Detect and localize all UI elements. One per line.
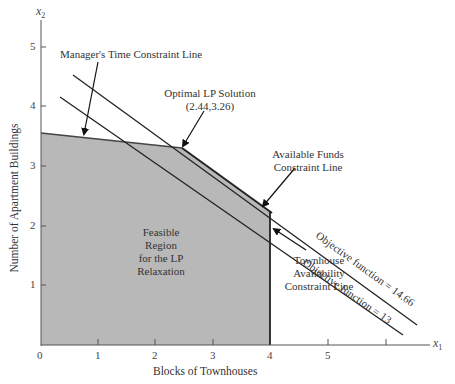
managers-time-arrow [84,62,98,134]
managers-time-label: Manager's Time Constraint Line [60,48,202,61]
x-tick-1: 1 [95,349,101,361]
feasible-region-label: Feasible Region for the LP Relaxation [126,226,196,278]
optimal-solution-label: Optimal LP Solution (2.44,3.26) [160,87,260,113]
x-axis-var-label: x1 [433,336,442,352]
x-tick-3: 3 [210,349,216,361]
y-axis-title: Number of Apartment Buildings [8,108,20,288]
x-axis-title: Blocks of Townhouses [153,365,257,378]
funds-constraint-label: Available Funds Constraint Line [258,148,358,174]
x-tick-4: 4 [267,349,273,361]
y-tick-1: 1 [30,278,36,290]
x-tick-2: 2 [152,349,158,361]
optimal-solution-arrow [183,111,204,146]
x-tick-0: 0 [37,349,43,361]
y-tick-5: 5 [30,40,36,52]
y-tick-4: 4 [30,99,36,111]
y-axis-var-label: x2 [36,4,45,20]
x-tick-5: 5 [325,349,331,361]
y-tick-2: 2 [30,219,36,231]
y-tick-3: 3 [30,159,36,171]
